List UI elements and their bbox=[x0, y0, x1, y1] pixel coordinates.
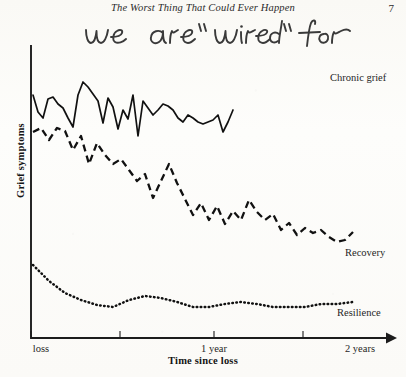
series-line-recovery bbox=[33, 128, 353, 242]
series-label-resilience: Resilience bbox=[337, 307, 381, 318]
grief-trajectory-chart bbox=[0, 0, 406, 377]
x-tick-label-2-years: 2 years bbox=[345, 343, 375, 354]
series-line-resilience bbox=[33, 265, 353, 307]
x-axis-arrow bbox=[386, 333, 397, 344]
y-axis-title: Grief symptoms bbox=[15, 96, 26, 226]
x-tick-label-loss: loss bbox=[33, 343, 49, 354]
book-page: The Worst Thing That Could Ever Happen 7 bbox=[0, 0, 406, 377]
series-label-recovery: Recovery bbox=[345, 247, 385, 258]
series-label-chronic-grief: Chronic grief bbox=[330, 72, 386, 83]
x-tick-label-1-year: 1 year bbox=[201, 343, 227, 354]
series-line-chronic-grief bbox=[33, 82, 233, 136]
x-axis-title: Time since loss bbox=[0, 355, 406, 366]
